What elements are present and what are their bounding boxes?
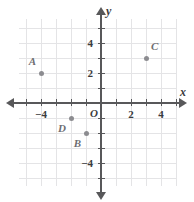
y-axis	[100, 14, 102, 192]
data-point-label-c: C	[151, 41, 158, 52]
y-axis-label: y	[106, 5, 111, 17]
x-axis-label: x	[180, 86, 186, 98]
x-axis-tick-label: −4	[35, 109, 47, 120]
y-axis-tick-label: 4	[88, 38, 94, 49]
x-axis-tick	[146, 99, 147, 106]
y-axis-tick	[98, 133, 105, 134]
x-axis-tick	[131, 99, 132, 106]
y-axis-tick	[98, 118, 105, 119]
data-point-label-a: A	[29, 56, 36, 67]
y-axis-tick	[98, 178, 105, 179]
x-axis-tick	[161, 99, 162, 106]
y-axis-tick	[98, 148, 105, 149]
x-axis-tick-label: 4	[158, 109, 164, 120]
x-axis-arrow-right	[179, 98, 187, 108]
x-axis-tick	[26, 99, 27, 106]
y-axis-arrow-up	[96, 7, 106, 15]
x-axis	[14, 102, 179, 104]
y-axis-tick	[98, 163, 105, 164]
y-axis-tick-label: −4	[81, 158, 93, 169]
x-axis-tick	[41, 99, 42, 106]
y-axis-tick	[98, 88, 105, 89]
origin-label: O	[90, 108, 98, 119]
data-point-d	[69, 116, 74, 121]
data-point-c	[144, 56, 149, 61]
data-point-b	[84, 131, 89, 136]
y-axis-tick	[98, 58, 105, 59]
data-point-a	[39, 71, 44, 76]
x-axis-tick	[86, 99, 87, 106]
y-axis-tick	[98, 28, 105, 29]
x-axis-tick-label: 2	[128, 109, 134, 120]
coordinate-plane-graph: −42442−4OxyABCD	[0, 0, 194, 202]
data-point-label-b: B	[74, 138, 81, 149]
x-axis-tick	[116, 99, 117, 106]
x-axis-tick	[176, 99, 177, 106]
y-axis-tick-label: 2	[88, 68, 94, 79]
y-axis-arrow-down	[96, 192, 106, 200]
data-point-label-d: D	[58, 123, 66, 134]
x-axis-tick	[71, 99, 72, 106]
y-axis-tick	[98, 43, 105, 44]
x-axis-arrow-left	[6, 98, 14, 108]
y-axis-tick	[98, 73, 105, 74]
x-axis-tick	[56, 99, 57, 106]
